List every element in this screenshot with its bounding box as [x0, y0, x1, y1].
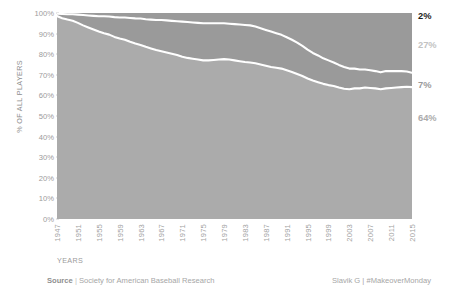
x-tick-label: 1987	[262, 224, 271, 242]
x-tick-label: 1959	[116, 224, 125, 242]
footer-source-label: Source	[47, 276, 73, 285]
series-end-label: 7%	[418, 80, 431, 90]
footer-source-text: Society for American Baseball Research	[79, 276, 215, 285]
footer-source: Source | Society for American Baseball R…	[47, 276, 214, 285]
x-tick-label: 1971	[178, 224, 187, 242]
x-tick-label: 1983	[241, 224, 250, 242]
x-tick-label: 1955	[95, 224, 104, 242]
x-tick-label: 1947	[53, 224, 62, 242]
x-tick-label: 2007	[366, 224, 375, 242]
x-tick-label: 1975	[199, 224, 208, 242]
series-end-label: 2%	[418, 11, 431, 21]
footer: Source | Society for American Baseball R…	[0, 276, 453, 290]
x-tick-label: 1979	[220, 224, 229, 242]
x-tick-label: 1991	[283, 224, 292, 242]
x-tick-label: 1999	[324, 224, 333, 242]
x-tick-label: 1967	[157, 224, 166, 242]
x-tick-label: 1995	[304, 224, 313, 242]
x-axis-tick-labels: 1947195119551959196319671971197519791983…	[0, 0, 453, 293]
x-tick-label: 2015	[408, 224, 417, 242]
footer-credit: Slavik G | #MakeoverMonday	[332, 276, 431, 285]
x-tick-label: 1963	[137, 224, 146, 242]
footer-source-separator: |	[75, 276, 77, 285]
chart-root: % OF ALL PLAYERS 100%90%80%70%60%50%40%3…	[0, 0, 453, 293]
x-tick-label: 2011	[387, 224, 396, 241]
series-end-label: 27%	[418, 40, 437, 50]
series-end-label: 64%	[418, 113, 437, 123]
x-tick-label: 2003	[345, 224, 354, 242]
x-axis-title: YEARS	[57, 256, 83, 265]
x-tick-label: 1951	[74, 224, 83, 242]
